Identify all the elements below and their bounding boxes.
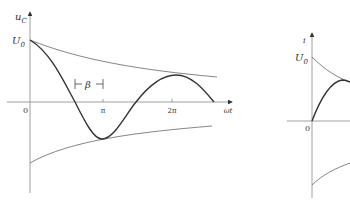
left-x-axis-label: ωt: [224, 107, 233, 115]
tick-2pi-label: 2π: [167, 107, 176, 115]
right-y-axis-label: i: [303, 36, 306, 45]
right-damped-curve: [312, 80, 350, 121]
left-y-axis-label: uC: [15, 11, 27, 25]
left-origin-label: 0: [23, 106, 28, 115]
phase-label: β: [84, 79, 91, 90]
left-lower-envelope: [30, 126, 212, 163]
figure: β uC U0 0 π 2π ωt i U0 0: [0, 0, 350, 200]
tick-pi-label: π: [101, 107, 106, 115]
left-damped-curve: [30, 40, 214, 139]
right-upper-envelope: [312, 57, 350, 82]
right-origin-label: 0: [305, 124, 310, 133]
right-lower-envelope: [312, 163, 350, 185]
left-plot: β uC U0 0 π 2π ωt: [7, 11, 232, 193]
right-u0-label: U0: [295, 52, 308, 66]
right-plot: i U0 0: [287, 33, 350, 198]
left-u0-label: U0: [12, 35, 25, 49]
